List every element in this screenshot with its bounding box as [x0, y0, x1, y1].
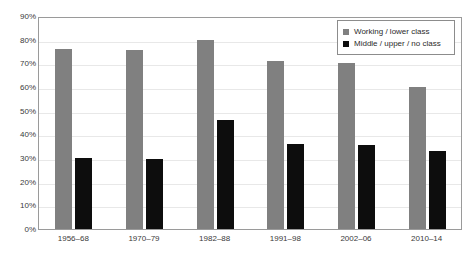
- bar[interactable]: [358, 145, 375, 229]
- x-axis-tick-label: 1982–88: [179, 234, 250, 243]
- y-axis-tick-label: 40%: [2, 131, 36, 139]
- y-axis-tick-label: 60%: [2, 84, 36, 92]
- bar[interactable]: [55, 49, 72, 229]
- legend-swatch-icon: [343, 29, 349, 35]
- y-axis-tick-label: 0%: [2, 226, 36, 234]
- y-axis-tick-label: 70%: [2, 60, 36, 68]
- legend-item-label: Working / lower class: [354, 27, 429, 36]
- bar[interactable]: [429, 151, 446, 229]
- legend-item[interactable]: Middle / upper / no class: [343, 38, 449, 49]
- bar-group: [261, 18, 311, 229]
- x-axis-tick-label: 2010–14: [391, 234, 462, 243]
- bar[interactable]: [409, 87, 426, 229]
- bar-group: [49, 18, 99, 229]
- bar[interactable]: [217, 120, 234, 229]
- bar[interactable]: [267, 61, 284, 229]
- bar[interactable]: [338, 63, 355, 229]
- x-axis-tick-label: 1970–79: [109, 234, 180, 243]
- x-axis-tick-label: 2002–06: [321, 234, 392, 243]
- y-axis-tick-label: 90%: [2, 13, 36, 21]
- bar[interactable]: [126, 50, 143, 229]
- y-axis-tick-label: 50%: [2, 108, 36, 116]
- bar[interactable]: [197, 40, 214, 229]
- x-axis-tick-label: 1956–68: [38, 234, 109, 243]
- y-axis-tick-label: 20%: [2, 179, 36, 187]
- legend-item-label: Middle / upper / no class: [354, 39, 441, 48]
- bar-chart: 90%80%70%60%50%40%30%20%10%0% 1956–68197…: [0, 0, 473, 267]
- y-axis: 90%80%70%60%50%40%30%20%10%0%: [0, 0, 36, 267]
- x-axis: 1956–681970–791982–881991–982002–062010–…: [38, 234, 462, 250]
- legend: Working / lower class Middle / upper / n…: [337, 20, 455, 55]
- y-axis-tick-label: 80%: [2, 37, 36, 45]
- legend-swatch-icon: [343, 41, 349, 47]
- bar[interactable]: [146, 159, 163, 229]
- x-axis-tick-label: 1991–98: [250, 234, 321, 243]
- y-axis-tick-label: 30%: [2, 155, 36, 163]
- y-axis-tick-label: 10%: [2, 202, 36, 210]
- bar-group: [191, 18, 241, 229]
- bar[interactable]: [75, 158, 92, 229]
- bar[interactable]: [287, 144, 304, 229]
- legend-item[interactable]: Working / lower class: [343, 26, 449, 37]
- bar-group: [120, 18, 170, 229]
